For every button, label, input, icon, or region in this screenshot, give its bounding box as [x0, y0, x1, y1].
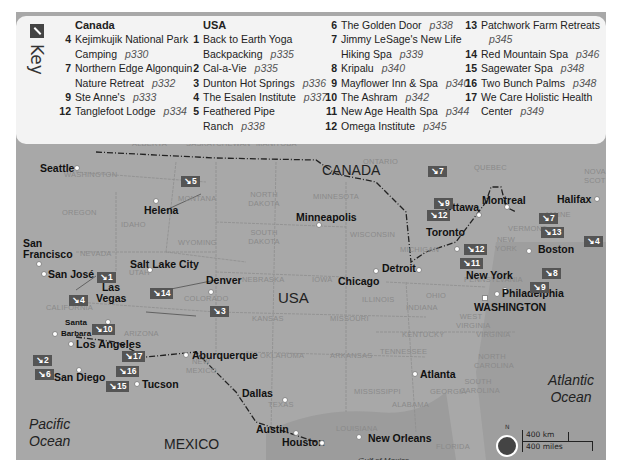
retreat-marker-5[interactable]: ↘5	[181, 176, 200, 187]
key-entry: 16Two Bunch Palmsp348	[462, 76, 600, 90]
retreat-marker-9[interactable]: ↘9	[434, 198, 453, 209]
key-entry: 9Ste Anne'sp333	[56, 90, 192, 104]
state-label: INDIANA	[406, 303, 438, 312]
key-heading-canada: Canada	[56, 18, 192, 32]
scale-bar: 400 km 400 miles	[522, 430, 593, 452]
key-entry: 9Mayflower Inn & Spap340	[322, 76, 469, 90]
capital-marker	[482, 295, 488, 301]
key-entry: 2Cal-a-Viep335	[184, 61, 327, 75]
key-panel: Key Canada 4Kejimkujik National Park Cam…	[16, 16, 606, 144]
state-label: ALABAMA	[392, 400, 429, 409]
country-label-canada: CANADA	[322, 162, 380, 178]
key-entry: 11New Age Health Spap344	[322, 104, 469, 118]
retreat-marker-12[interactable]: ↘12	[464, 244, 487, 255]
retreat-marker-4[interactable]: ↘4	[69, 295, 88, 306]
retreat-marker-17[interactable]: ↘17	[122, 351, 145, 362]
ocean-label-gulf: Gulf of Mexico	[358, 456, 409, 460]
state-label: KENTUCKY	[402, 330, 444, 339]
retreat-marker-3[interactable]: ↘3	[210, 306, 229, 317]
city-san-francisco: San Francisco	[23, 238, 63, 260]
key-entry: 10The Ashramp342	[322, 90, 469, 104]
city-dot	[504, 204, 510, 210]
retreat-marker-6[interactable]: ↘6	[35, 369, 54, 380]
city-dot	[208, 289, 214, 295]
state-label: TEXAS	[268, 400, 294, 409]
state-label: OHIO	[426, 291, 446, 300]
state-label: OKLAHOMA	[260, 351, 304, 360]
state-label: SOUTH CAROLINA	[460, 377, 496, 395]
state-label: SOUTH DAKOTA	[246, 228, 282, 246]
city-washington: WASHINGTON	[474, 302, 546, 313]
key-entry: 7Jimmy LeSage's New Life	[322, 32, 469, 46]
key-entry: 7Northern Edge Algonquin	[56, 61, 192, 75]
city-dot	[74, 165, 80, 171]
city-dot	[319, 440, 325, 446]
state-label: MISSISSIPPI	[354, 387, 401, 396]
key-entry: 6The Golden Doorp338	[322, 18, 469, 32]
key-entry: 1Back to Earth Yoga	[184, 32, 327, 46]
city-dot	[68, 341, 74, 347]
state-label: MICHIGAN	[400, 245, 439, 254]
retreat-marker-1[interactable]: ↘1	[97, 272, 116, 283]
key-entry: 3Dunton Hot Springsp336	[184, 76, 327, 90]
key-entry: 13Patchwork Farm Retreats	[462, 18, 600, 32]
key-entry: 14Red Mountain Spap346	[462, 47, 600, 61]
retreat-marker-16[interactable]: ↘16	[116, 366, 139, 377]
city-halifax: Halifax	[557, 194, 591, 205]
city-dot	[454, 246, 460, 252]
state-label: FLORIDA	[436, 442, 470, 451]
state-label: ARKANSAS	[330, 351, 372, 360]
retreat-marker-15[interactable]: ↘15	[106, 381, 129, 392]
state-label: NORTH DAKOTA	[246, 190, 282, 208]
key-entry: 4Kejimkujik National Park	[56, 32, 192, 46]
city-dot	[356, 434, 362, 440]
ocean-label-pacific: Pacific Ocean	[29, 416, 109, 450]
city-dot	[526, 248, 532, 254]
retreat-marker-14[interactable]: ↘14	[150, 288, 173, 299]
state-label: ILLINOIS	[362, 295, 394, 304]
key-entry: 4The Esalen Institutep337	[184, 90, 327, 104]
retreat-marker-10[interactable]: ↘10	[92, 324, 115, 335]
key-column-canada: Canada 4Kejimkujik National Park Camping…	[56, 18, 192, 119]
city-dot	[416, 267, 422, 273]
city-dot	[134, 381, 140, 387]
key-entry: 17We Care Holistic Health	[462, 90, 600, 104]
retreat-marker-13[interactable]: ↘13	[541, 227, 564, 238]
state-label: NEW YORK	[494, 235, 518, 253]
city-dot	[373, 268, 379, 274]
state-label: ARIZONA	[124, 329, 159, 338]
city-dot	[147, 267, 153, 273]
scale-miles: 400 miles	[526, 442, 563, 451]
state-label: COLORADO	[184, 294, 229, 303]
state-label: NEVADA	[80, 249, 112, 258]
city-minneapolis: Minneapolis	[296, 212, 357, 223]
city-chicago: Chicago	[338, 276, 379, 287]
key-heading-usa: USA	[184, 18, 327, 32]
key-column-usa-2: 6The Golden Doorp338 7Jimmy LeSage's New…	[322, 18, 469, 133]
retreat-marker-12[interactable]: ↘12	[427, 210, 450, 221]
state-label: WISCONSIN	[350, 230, 395, 239]
retreat-marker-4[interactable]: ↘4	[584, 236, 603, 247]
state-label: WEST VIRGINIA	[456, 312, 486, 330]
city-san-jose: San José	[48, 269, 94, 280]
city-dot	[76, 367, 82, 373]
city-dot	[183, 352, 189, 358]
city-toronto: Toronto	[426, 227, 465, 238]
retreat-marker-8[interactable]: ↘8	[542, 268, 561, 279]
state-label: NORTH CAROLINA	[474, 352, 510, 370]
state-label: TENNESSEE	[380, 347, 427, 356]
retreat-marker-2[interactable]: ↘2	[33, 355, 52, 366]
retreat-marker-7[interactable]: ↘7	[428, 166, 447, 177]
retreat-marker-11[interactable]: ↘11	[460, 258, 483, 269]
country-label-usa: USA	[278, 289, 309, 306]
country-label-mexico: MEXICO	[164, 436, 219, 452]
key-column-usa-1: USA 1Back to Earth Yoga Backpackingp335 …	[184, 18, 327, 133]
key-column-usa-3: 13Patchwork Farm Retreats p345 14Red Mou…	[462, 18, 600, 119]
state-label: QUEBEC	[474, 163, 507, 172]
retreat-marker-7[interactable]: ↘7	[539, 213, 558, 224]
state-label: MONTANA	[178, 194, 216, 203]
city-san-diego: San Diego	[54, 372, 105, 383]
city-dot	[594, 196, 600, 202]
retreat-marker-9[interactable]: ↘9	[530, 282, 549, 293]
city-dot	[316, 222, 322, 228]
